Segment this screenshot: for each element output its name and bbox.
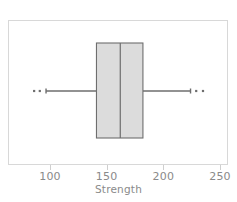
plot-area [9, 21, 227, 164]
outlier-point [33, 90, 35, 92]
box-plot-chart: 100150200250 Strength [0, 0, 237, 202]
x-axis: 100150200250 [0, 165, 237, 179]
x-axis-tick-label: 250 [209, 170, 231, 183]
x-axis-tick-label: 150 [96, 170, 118, 183]
x-axis-tick-label: 200 [153, 170, 175, 183]
box-plot-svg [9, 21, 227, 164]
outlier-point [195, 90, 197, 92]
outlier-point [202, 90, 204, 92]
x-axis-title: Strength [0, 183, 237, 195]
plot-frame [8, 20, 228, 165]
outlier-point [39, 90, 41, 92]
x-axis-tick-label: 100 [39, 170, 61, 183]
